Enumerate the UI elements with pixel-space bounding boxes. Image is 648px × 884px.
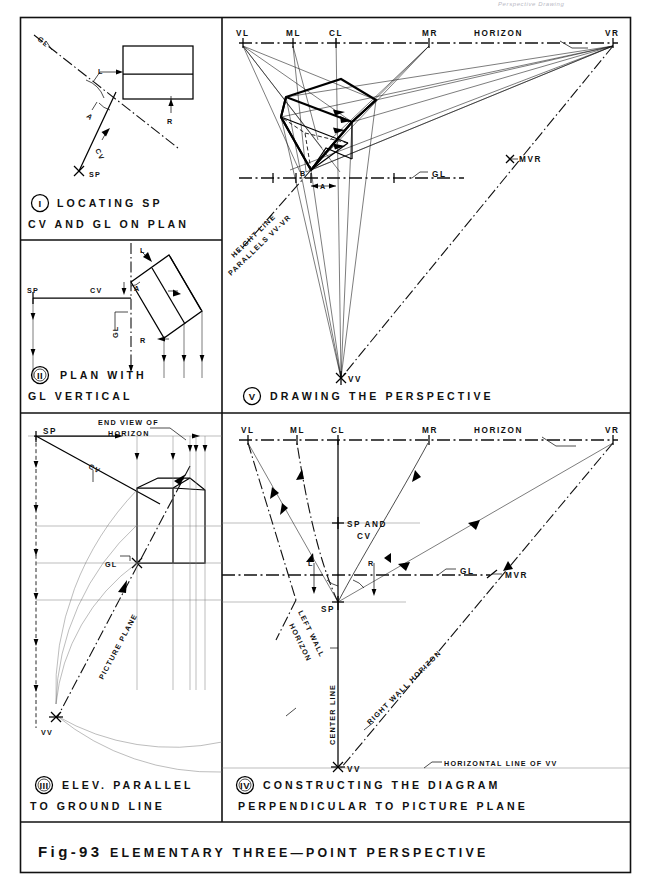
panel1-label-L: L xyxy=(98,67,104,76)
panel4-right-wall-horizon xyxy=(341,443,613,768)
panel1-leader-L xyxy=(93,72,116,82)
panelV-label-mvr: MVR xyxy=(519,155,542,164)
panel3-caption-line1: ELEV. PARALLEL xyxy=(62,779,194,791)
panel4-label-cv: CV xyxy=(357,532,372,541)
panel2-label-sp: SP xyxy=(27,286,39,295)
panel2-arrow-R xyxy=(157,336,165,341)
panel4-ray-sp-vl xyxy=(248,443,338,602)
panel4-arc-arrows xyxy=(296,469,421,563)
panel2-label-R: R xyxy=(140,336,146,345)
panel2-caption-line2: GL VERTICAL xyxy=(28,390,133,402)
panel4-label-horizon: HORIZON xyxy=(474,426,523,435)
panel2-label-gl: GL xyxy=(111,326,120,338)
panel4-left-wall-horizon-upper xyxy=(248,443,296,600)
panel2-plan-box xyxy=(131,255,202,338)
panelV-horizon-leader xyxy=(560,41,588,48)
panel1-label-A: A xyxy=(85,111,96,122)
panel4-label-R: R xyxy=(368,559,374,568)
panel1-caption-line1: LOCATING SP xyxy=(57,197,163,209)
panel1-arrow-R xyxy=(168,99,173,106)
panel4-arrow-lwh xyxy=(270,487,279,499)
panel4-numeral: IV xyxy=(240,780,250,791)
panelV-label-gl: GL xyxy=(432,170,447,179)
panel1-arrow-L xyxy=(116,69,123,74)
panelV-label-vl: VL xyxy=(236,29,250,38)
figure-title-bar: Fig-93 ELEMENTARY THREE—POINT PERSPECTIV… xyxy=(38,843,488,860)
panelV-label-mr: MR xyxy=(422,29,438,38)
panel2-arrow-A xyxy=(122,288,127,295)
panel4-caption: IV CONSTRUCTING THE DIAGRAM PERPENDICULA… xyxy=(237,777,528,813)
figure-number: Fig-93 xyxy=(38,843,103,860)
panelV-label-cl: CL xyxy=(329,29,343,38)
panel1-arrow-CV xyxy=(102,128,111,137)
panel-II: SP CV A L GL R II PLAN WITH GL VERTICAL xyxy=(27,243,204,402)
panel3-caption-line2: TO GROUND LINE xyxy=(30,800,165,812)
panel4-label-gl: GL xyxy=(460,567,475,576)
panelV-rays-mr xyxy=(311,46,429,170)
panelV-vv-converging xyxy=(281,38,376,378)
panelV-vv-mark xyxy=(336,371,346,385)
panel4-hlvv-leader xyxy=(424,762,442,768)
panel4-label-L: L xyxy=(308,559,314,568)
panel2-label-cv: CV xyxy=(90,286,102,295)
panel3-label-horizon: HORIZON xyxy=(108,429,150,438)
panelV-label-vv: VV xyxy=(348,375,362,384)
figure-page: Perspective Drawing GL xyxy=(0,0,648,884)
panel3-label-gl: GL xyxy=(105,560,117,569)
panelV-caption-line1: DRAWING THE PERSPECTIVE xyxy=(270,390,494,402)
panelV-label-B: B xyxy=(300,169,306,178)
panel3-numeral: III xyxy=(39,780,48,791)
header-note: Perspective Drawing xyxy=(498,1,564,7)
panel4-caption-line2: PERPENDICULAR TO PICTURE PLANE xyxy=(238,800,528,812)
panel1-caption-line2: CV AND GL ON PLAN xyxy=(28,218,189,230)
panel4-label-center-line: CENTER LINE xyxy=(328,684,337,745)
panel4-arrow-sp-vr xyxy=(468,520,480,530)
panel3-elevation-solid xyxy=(137,478,205,563)
panelV-solid xyxy=(281,79,376,170)
panel4-gl-leader xyxy=(438,569,456,575)
panel-V: VL ML CL MR HORIZON VR MVR B A GL HEIGHT… xyxy=(226,29,619,405)
panel4-label-mr: MR xyxy=(422,426,438,435)
panel2-arrow-CV xyxy=(173,290,181,297)
panel1-label-cv: CV xyxy=(93,147,107,162)
panel-III: SP END VIEW OF HORIZON CV GL PICTURE PLA… xyxy=(28,418,222,812)
panel-I: GL L A R CV SP I LOCATING SP CV AND GL O… xyxy=(28,34,193,230)
panel4-label-ml: ML xyxy=(290,426,305,435)
panelV-label-ml: ML xyxy=(286,29,301,38)
panelV-rays-vr xyxy=(281,46,613,172)
panel1-leader-A xyxy=(92,102,97,110)
panel4-label-vl: VL xyxy=(241,426,255,435)
panel-IV: VL ML CL MR HORIZON VR SP AND CV GL MVR … xyxy=(222,426,630,812)
panelV-label-A: A xyxy=(320,182,326,191)
panel4-label-vr: VR xyxy=(605,426,620,435)
panel1-plan-box xyxy=(123,46,193,99)
panelV-caption: V DRAWING THE PERSPECTIVE xyxy=(244,388,494,405)
panel1-caption: I LOCATING SP CV AND GL ON PLAN xyxy=(28,195,189,231)
panel3-label-picture-plane: PICTURE PLANE xyxy=(97,612,139,681)
panel3-vertical-arrows xyxy=(135,445,208,460)
panel1-label-sp: SP xyxy=(89,170,101,179)
panel4-arrow-R xyxy=(372,589,377,596)
panel3-proj-horizontals xyxy=(36,526,222,600)
outer-frame xyxy=(21,18,631,873)
panel1-label-R: R xyxy=(167,117,173,126)
panel4-angle-R-arc xyxy=(353,580,364,588)
panel3-label-sp: SP xyxy=(43,427,57,436)
panel1-numeral: I xyxy=(38,198,41,209)
panel4-arrow-sp-vl xyxy=(280,503,288,515)
panel4-grey-horizontals xyxy=(222,523,420,602)
panel3-label-cv: CV xyxy=(87,462,102,476)
panel2-caption-line1: PLAN WITH xyxy=(60,369,147,381)
panel4-arc-ml xyxy=(297,443,338,602)
panel4-label-right-wall-horizon: RIGHT WALL HORIZON xyxy=(365,648,443,726)
panel4-label-sp-and: SP AND xyxy=(347,520,387,529)
panel4-arrow-L xyxy=(312,587,317,594)
panel4-label-horizontal-line-vv: HORIZONTAL LINE OF VV xyxy=(444,759,558,768)
panelV-label-vr: VR xyxy=(605,29,620,38)
panel3-gl-leader xyxy=(120,556,130,561)
panel1-sp-mark xyxy=(74,166,84,176)
panelV-label-horizon: HORIZON xyxy=(474,29,523,38)
panel3-endview-leader xyxy=(150,428,186,440)
panel4-arrow-rwh xyxy=(503,561,513,571)
panel4-label-vv: VV xyxy=(347,765,361,774)
